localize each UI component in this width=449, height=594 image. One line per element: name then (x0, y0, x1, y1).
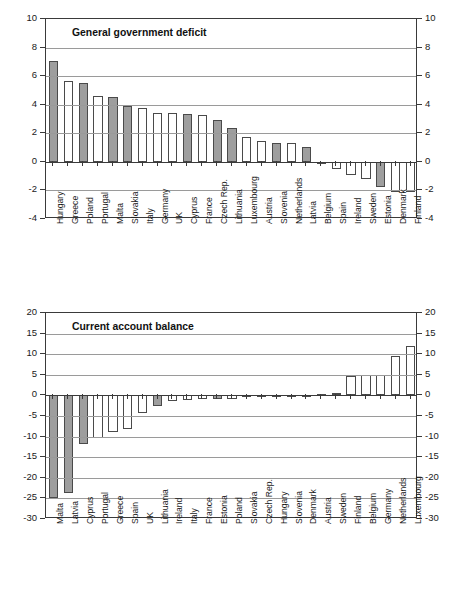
x-axis-label: Estonia (384, 195, 393, 224)
x-axis-label: Luxembourg (250, 176, 259, 224)
x-tick (350, 394, 351, 399)
plot-area-deficit (45, 18, 417, 218)
y-tick-right (417, 189, 422, 190)
x-axis-label: Netherlands (295, 178, 304, 224)
x-tick (112, 161, 113, 166)
x-tick (320, 161, 321, 166)
gridline (46, 354, 416, 355)
x-axis-label: Spain (339, 202, 348, 224)
x-axis-label: Belgium (324, 193, 333, 224)
bar (168, 113, 177, 162)
x-axis-label: Italy (146, 208, 155, 224)
y-axis-label-right: -30 (425, 513, 449, 523)
x-axis-label: Slovakia (131, 192, 140, 224)
y-axis-label-right: 0 (425, 156, 449, 166)
y-axis-label-left: 5 (3, 369, 37, 379)
x-axis-label: Belgium (369, 493, 378, 524)
gridline (46, 48, 416, 49)
bar (93, 96, 102, 162)
y-axis-label-right: -10 (425, 431, 449, 441)
y-axis-label-left: 6 (3, 70, 37, 80)
gridline (46, 416, 416, 417)
x-axis-label: France (205, 197, 214, 224)
bar (272, 143, 281, 162)
x-tick (52, 161, 53, 166)
bar-series-deficit (46, 19, 416, 217)
x-tick (380, 394, 381, 399)
y-tick-left (40, 161, 45, 162)
y-tick-right (417, 18, 422, 19)
x-axis-label: Ireland (175, 498, 184, 524)
y-tick-left (40, 218, 45, 219)
x-axis-label: Greece (71, 196, 80, 224)
y-tick-left (40, 312, 45, 313)
y-tick-left (40, 333, 45, 334)
bar (79, 83, 88, 162)
x-axis-label: Estonia (220, 495, 229, 524)
x-tick (97, 161, 98, 166)
bar (123, 395, 132, 429)
x-axis-label: Portugal (101, 492, 110, 524)
y-tick-left (40, 497, 45, 498)
x-tick (291, 161, 292, 166)
x-tick (231, 161, 232, 166)
x-tick (305, 394, 306, 399)
y-axis-label-right: 8 (425, 42, 449, 52)
x-tick (67, 161, 68, 166)
x-axis-label: Sweden (369, 193, 378, 224)
y-tick-right (417, 47, 422, 48)
x-tick (127, 161, 128, 166)
y-tick-right (417, 132, 422, 133)
x-tick (142, 394, 143, 399)
x-tick (127, 394, 128, 399)
x-tick (142, 161, 143, 166)
y-tick-left (40, 189, 45, 190)
y-tick-right (417, 161, 422, 162)
gridline (46, 334, 416, 335)
bar (153, 395, 162, 405)
x-tick (157, 394, 158, 399)
x-tick (82, 394, 83, 399)
x-axis-label: Hungary (56, 192, 65, 224)
x-tick (276, 394, 277, 399)
y-tick-right (417, 374, 422, 375)
x-tick (395, 394, 396, 399)
y-tick-right (417, 75, 422, 76)
x-axis-label: Finland (414, 196, 423, 224)
y-axis-label-right: -5 (425, 410, 449, 420)
y-tick-right (417, 456, 422, 457)
bar (391, 356, 400, 395)
x-axis-label: Portugal (101, 192, 110, 224)
y-axis-label-right: 5 (425, 369, 449, 379)
bar (108, 395, 117, 432)
y-tick-right (417, 104, 422, 105)
x-axis-label: Austria (324, 497, 333, 524)
y-axis-label-left: -20 (3, 472, 37, 482)
panel-current-account-balance: 2020151510105500-5-5-10-10-15-15-20-20-2… (0, 297, 449, 594)
x-axis-label: Czech Rep. (220, 179, 229, 224)
x-axis-label: Ireland (354, 198, 363, 224)
panel-general-government-deficit: 10108866442200-2-2-4-4HungaryGreecePolan… (0, 0, 449, 297)
bar (183, 114, 192, 162)
x-axis-label: Slovenia (280, 191, 289, 224)
bar (213, 120, 222, 161)
bar (376, 375, 385, 396)
y-tick-right (417, 333, 422, 334)
y-axis-label-left: 0 (3, 156, 37, 166)
bar (361, 375, 370, 396)
y-axis-label-right: 4 (425, 99, 449, 109)
x-tick (186, 161, 187, 166)
y-axis-label-left: 10 (3, 13, 37, 23)
bar (138, 108, 147, 162)
x-tick (52, 394, 53, 399)
bar (346, 376, 355, 395)
y-tick-right (417, 312, 422, 313)
bar (153, 113, 162, 162)
x-axis-label: Greece (116, 496, 125, 524)
x-axis-label: Denmark (399, 189, 408, 224)
y-axis-label-left: 0 (3, 389, 37, 399)
gridline (46, 457, 416, 458)
y-axis-label-left: -15 (3, 451, 37, 461)
gridline (46, 105, 416, 106)
chart-title-balance: Current account balance (72, 322, 194, 332)
